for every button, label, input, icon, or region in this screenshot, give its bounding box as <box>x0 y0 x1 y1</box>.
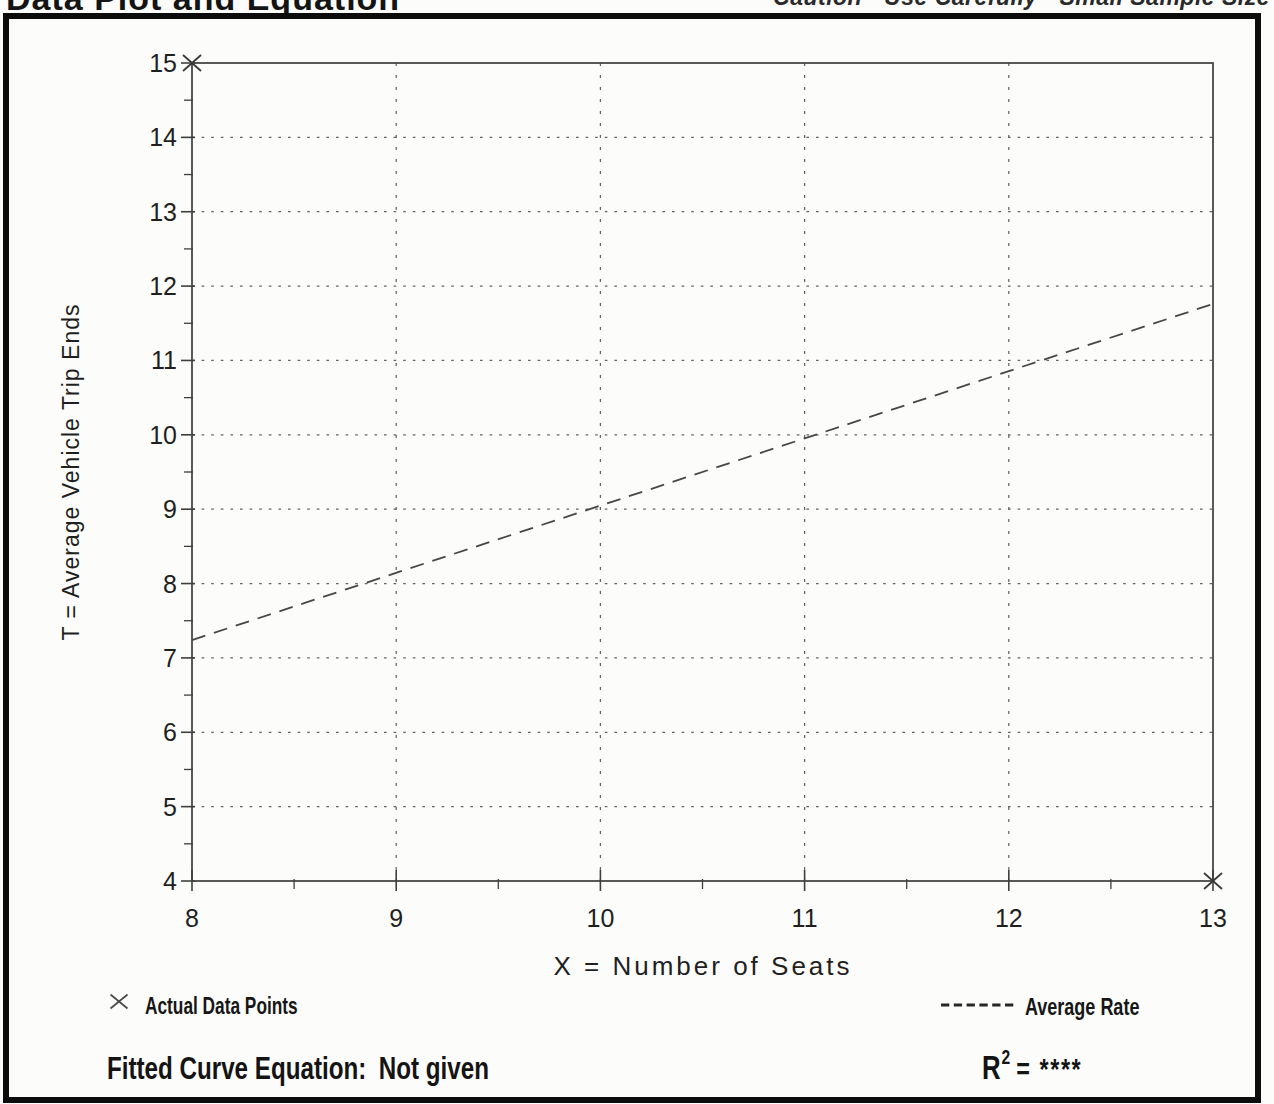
x-tick-label: 12 <box>995 904 1023 932</box>
y-tick-label: 14 <box>149 123 177 151</box>
x-tick-label: 10 <box>586 904 614 932</box>
average-rate-line <box>192 304 1213 640</box>
y-tick-label: 6 <box>163 718 177 746</box>
x-tick-label: 13 <box>1199 904 1227 932</box>
x-axis-title: X = Number of Seats <box>553 951 852 982</box>
y-tick-label: 12 <box>149 272 177 300</box>
y-tick-label: 5 <box>163 793 177 821</box>
x-tick-label: 9 <box>389 904 403 932</box>
y-tick-label: 9 <box>163 495 177 523</box>
page-root: Data Plot and Equation Caution - Use Car… <box>0 0 1274 1104</box>
r-squared-exponent: 2 <box>1001 1046 1010 1068</box>
legend-actual-data-points-label: Actual Data Points <box>145 992 298 1020</box>
fitted-curve-equation-label: Fitted Curve Equation: <box>107 1051 366 1086</box>
chart-svg: 8910111213456789101112131415 <box>0 0 1274 1104</box>
x-marker-icon <box>109 993 129 1010</box>
y-axis-title: T = Average Vehicle Trip Ends <box>58 304 85 641</box>
fitted-curve-equation-value: Not given <box>379 1051 489 1086</box>
x-tick-label: 8 <box>185 904 199 932</box>
y-tick-label: 7 <box>163 644 177 672</box>
legend-average-rate-label: Average Rate <box>1025 993 1139 1021</box>
r-squared: R2= **** <box>982 1049 1082 1087</box>
dashed-line-icon <box>941 1001 1015 1009</box>
r-squared-base: R <box>982 1049 1001 1086</box>
y-tick-label: 10 <box>149 421 177 449</box>
y-tick-label: 11 <box>151 346 177 374</box>
y-tick-label: 13 <box>149 198 177 226</box>
y-tick-label: 4 <box>163 867 177 895</box>
y-tick-label: 15 <box>149 49 177 77</box>
x-tick-label: 11 <box>792 904 818 932</box>
r-squared-value: = **** <box>1016 1052 1082 1085</box>
y-tick-label: 8 <box>163 570 177 598</box>
fitted-curve-equation: Fitted Curve Equation:Not given <box>107 1051 489 1087</box>
